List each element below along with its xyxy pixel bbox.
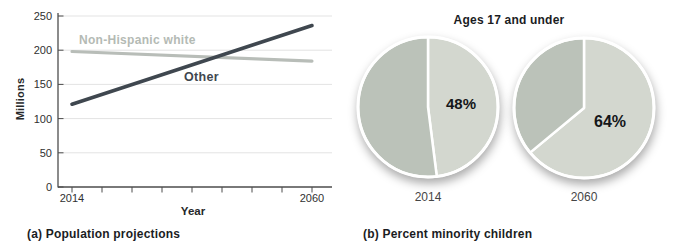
y-tick-label-150: 150 — [34, 78, 52, 90]
figure-container: 050100150200250 Millions Non-Hispanic wh… — [0, 0, 675, 251]
series-label-non-hispanic-white: Non-Hispanic white — [79, 33, 196, 47]
y-tick-label-50: 50 — [40, 147, 52, 159]
pies-title: Ages 17 and under — [409, 13, 609, 27]
y-tick-label-200: 200 — [34, 44, 52, 56]
y-tick-label-250: 250 — [34, 10, 52, 22]
pie-2014-percent-label: 48% — [433, 95, 489, 112]
caption-panel-b: (b) Percent minority children — [363, 227, 532, 241]
pie-slice-non-minority — [358, 37, 437, 177]
series-line-non-hispanic-white — [72, 52, 312, 62]
caption-panel-a: (a) Population projections — [27, 227, 180, 241]
x-tick-label-2014: 2014 — [47, 192, 97, 204]
x-axis-title: Year — [153, 205, 233, 217]
series-label-other: Other — [184, 70, 219, 84]
y-tick-label-100: 100 — [34, 113, 52, 125]
y-axis-title: Millions — [14, 59, 26, 139]
x-tick-label-2060: 2060 — [287, 192, 337, 204]
pie-2014-year-label: 2014 — [398, 190, 458, 204]
pie-2060-year-label: 2060 — [554, 190, 614, 204]
pie-2060-percent-label: 64% — [582, 113, 638, 131]
pie-chart-2060 — [509, 33, 659, 183]
